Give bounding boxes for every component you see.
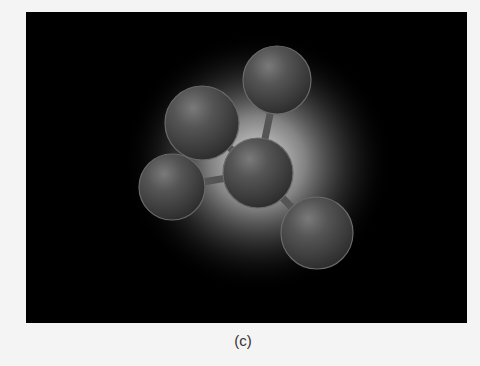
atom-bottom-right (281, 197, 353, 269)
atom-center (223, 138, 293, 208)
figure-caption: (c) (0, 332, 480, 349)
molecule-figure-panel (26, 12, 467, 323)
atom-left (139, 154, 205, 220)
molecule-diagram (26, 12, 467, 323)
atom-upper-left (165, 86, 239, 160)
atom-top (243, 46, 311, 114)
